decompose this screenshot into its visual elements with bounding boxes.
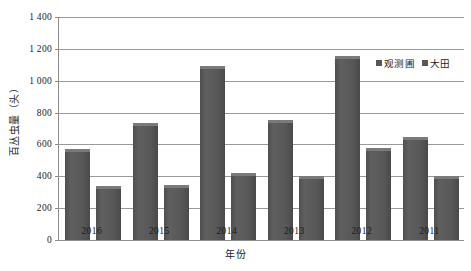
y-tick-label: 1 200 [29,44,52,54]
x-tick-label: 2011 [394,226,464,236]
y-tick-label: 800 [37,108,52,118]
y-tick-label: 600 [37,139,52,149]
legend-label: 观测圃 [384,56,415,70]
legend-entry-观测圃: 观测圃 [376,56,415,70]
legend-label: 大田 [430,56,451,70]
y-tick-label: 200 [37,203,52,213]
bar-观测圃-2012 [335,56,360,240]
x-tick-label: 2014 [192,226,262,236]
x-tick-label: 2015 [124,226,194,236]
bar-group [127,17,195,240]
bar-group [397,17,465,240]
bar-观测圃-2014 [200,66,225,240]
bar-group [59,17,127,240]
bar-观测圃-2015 [133,123,158,240]
legend-swatch-icon [422,60,428,66]
legend-swatch-icon [376,60,382,66]
y-axis-title: 百丛虫量（头） [6,60,21,180]
x-axis-title: 年份 [0,246,471,261]
bar-观测圃-2013 [268,120,293,240]
x-tick-label: 2016 [57,226,127,236]
bar-group [194,17,262,240]
x-tick-label: 2012 [327,226,397,236]
y-tick-label: 400 [37,171,52,181]
y-tick-label: 1 000 [29,76,52,86]
x-tick-label: 2013 [259,226,329,236]
bars-layer [59,17,464,240]
y-tick-label: 1 400 [29,12,52,22]
chart-legend: 观测圃大田 [376,56,451,70]
gridline [59,240,464,241]
plot-area: 02004006008001 0001 2001 400 [58,17,463,240]
bar-group [329,17,397,240]
bar-group [262,17,330,240]
bar-chart: 百丛虫量（头） 02004006008001 0001 2001 400 201… [0,0,471,271]
y-tick-mark [55,240,59,241]
bar-观测圃-2011 [403,137,428,240]
legend-entry-大田: 大田 [422,56,451,70]
y-tick-label: 0 [47,235,52,245]
